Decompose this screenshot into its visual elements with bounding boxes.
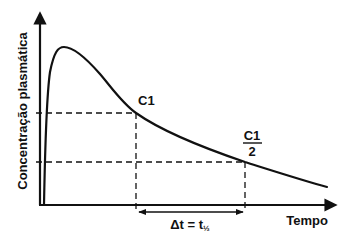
concentration-curve (44, 47, 327, 205)
c1-label: C1 (138, 93, 155, 108)
pharmacokinetic-chart: Concentração plasmática Tempo C1 C1 2 Δt… (0, 0, 350, 241)
y-axis-label: Concentração plasmática (15, 31, 30, 189)
half-life-label: Δt = t½ (170, 217, 210, 233)
c1-half-numerator: C1 (244, 128, 261, 143)
c1-half-denominator: 2 (248, 144, 255, 159)
half-subscript: ½ (203, 224, 210, 233)
x-axis-label: Tempo (286, 213, 328, 228)
